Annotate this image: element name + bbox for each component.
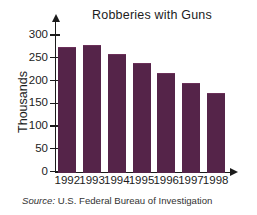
bar-1998 [207, 93, 225, 172]
plot-area: 300250200150100500 199219931994199519961… [0, 0, 257, 215]
y-tick-mark [50, 34, 60, 35]
bar-1995 [133, 63, 151, 173]
y-tick-label: 50 [22, 143, 48, 155]
y-axis-line [55, 22, 56, 173]
y-tick-label: 300 [22, 29, 48, 41]
source-text: U.S. Federal Bureau of Investigation [58, 195, 213, 206]
y-tick-label: 100 [22, 120, 48, 132]
y-tick-label: 250 [22, 52, 48, 64]
x-tick-label-1998: 1998 [201, 175, 231, 187]
y-tick-labels: 300250200150100500 [20, 0, 48, 215]
y-tick-label: 200 [22, 75, 48, 87]
bar-1997 [182, 83, 200, 173]
source-label: Source: [22, 195, 55, 206]
bar-1993 [83, 45, 101, 173]
y-axis-arrow-icon [52, 14, 60, 22]
bar-1994 [108, 54, 126, 173]
chart-figure: Robberies with Guns Thousands 3002502001… [0, 0, 257, 215]
bar-1992 [58, 47, 76, 172]
y-tick-label: 0 [22, 166, 48, 178]
y-tick-label: 150 [22, 97, 48, 109]
bar-1996 [157, 73, 175, 172]
source-note: Source: U.S. Federal Bureau of Investiga… [22, 195, 212, 206]
x-axis-arrow-icon [230, 168, 238, 176]
